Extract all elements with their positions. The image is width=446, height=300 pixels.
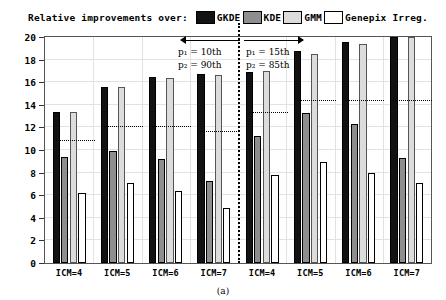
- reference-line-group-6: [297, 100, 336, 101]
- bar-kde-group-8: [399, 158, 406, 263]
- bar-kde-group-4: [206, 181, 213, 263]
- bar-kde-group-6: [302, 113, 309, 263]
- annotation-right-p1: p₁ = 15th: [246, 47, 290, 57]
- arrow-head-right-icon: [298, 36, 304, 44]
- x-axis-label-8: ICM=7: [394, 268, 421, 278]
- bar-gkde-group-7: [342, 42, 349, 263]
- legend-item-genepix: Genepix Irreg.: [324, 11, 428, 24]
- gridline-vertical: [142, 37, 143, 263]
- legend-swatch-gkde: [196, 11, 215, 24]
- bar-gkde-group-6: [294, 51, 301, 263]
- bar-gmm-group-1: [70, 112, 77, 263]
- y-axis-tick-4: 4: [30, 212, 36, 223]
- gridline-vertical: [286, 37, 287, 263]
- bar-genepix-group-1: [78, 193, 85, 263]
- bar-gmm-group-3: [166, 78, 173, 263]
- bar-gkde-group-4: [197, 74, 204, 263]
- bar-gkde-group-3: [149, 77, 156, 263]
- bar-kde-group-1: [61, 157, 68, 263]
- bar-genepix-group-7: [368, 173, 375, 263]
- panel-divider: [238, 23, 240, 263]
- y-axis-tick-12: 12: [25, 122, 36, 133]
- y-axis-tick-0: 0: [30, 258, 36, 269]
- x-axis-label-1: ICM=4: [56, 268, 83, 278]
- legend-item-gkde: GKDE: [196, 11, 241, 24]
- bar-gkde-group-8: [390, 37, 397, 263]
- x-axis-label-2: ICM=5: [104, 268, 131, 278]
- bar-genepix-group-8: [416, 183, 423, 263]
- reference-line-group-5: [249, 112, 288, 113]
- gridline-vertical: [335, 37, 336, 263]
- y-axis: 02468101214161820: [0, 36, 44, 264]
- annotation-left-p1: p₁ = 10th: [178, 47, 222, 57]
- gridline-vertical: [383, 37, 384, 263]
- bar-genepix-group-3: [175, 191, 182, 263]
- legend-label-genepix: Genepix Irreg.: [345, 12, 428, 23]
- legend-item-kde: KDE: [243, 11, 282, 24]
- reference-line-group-2: [104, 126, 143, 127]
- y-axis-tick-2: 2: [30, 235, 36, 246]
- bar-gkde-group-2: [101, 87, 108, 263]
- chart-legend: Relative improvements over: GKDE KDE GMM…: [28, 8, 442, 26]
- bar-genepix-group-5: [271, 175, 278, 263]
- plot-area: [44, 36, 432, 264]
- x-axis-label-4: ICM=7: [201, 268, 228, 278]
- bar-gmm-group-4: [215, 75, 222, 263]
- y-axis-tick-8: 8: [30, 167, 36, 178]
- annotation-right-p2: p₂ = 85th: [246, 60, 290, 70]
- legend-title: Relative improvements over:: [28, 12, 188, 23]
- gridline-vertical: [93, 37, 94, 263]
- x-axis-label-3: ICM=6: [152, 268, 179, 278]
- reference-line-group-7: [345, 100, 384, 101]
- legend-label-gmm: GMM: [304, 12, 322, 23]
- legend-swatch-gmm: [283, 11, 302, 24]
- bar-gmm-group-5: [263, 71, 270, 263]
- bar-gmm-group-8: [408, 37, 415, 263]
- bar-genepix-group-4: [223, 208, 230, 263]
- annotation-arrow-right: [244, 36, 303, 45]
- bar-genepix-group-2: [127, 183, 134, 263]
- bar-genepix-group-6: [320, 162, 327, 263]
- annotation-left-p2: p₂ = 90th: [178, 60, 222, 70]
- bar-gkde-group-5: [246, 72, 253, 263]
- legend-label-gkde: GKDE: [217, 12, 241, 23]
- figure-caption: (a): [0, 286, 446, 296]
- arrow-line: [244, 40, 303, 41]
- x-axis-label-5: ICM=4: [249, 268, 276, 278]
- bar-kde-group-3: [158, 159, 165, 263]
- bar-kde-group-5: [254, 136, 261, 263]
- y-axis-tick-16: 16: [25, 77, 36, 88]
- bar-gmm-group-7: [359, 44, 366, 263]
- gridline-vertical: [190, 37, 191, 263]
- y-axis-tick-20: 20: [25, 32, 36, 43]
- bar-gkde-group-1: [53, 112, 60, 263]
- y-axis-tick-10: 10: [25, 145, 36, 156]
- y-axis-tick-6: 6: [30, 190, 36, 201]
- bar-gmm-group-6: [311, 54, 318, 263]
- legend-item-gmm: GMM: [283, 11, 322, 24]
- chart-root: Relative improvements over: GKDE KDE GMM…: [0, 0, 446, 300]
- reference-line-group-8: [393, 100, 432, 101]
- bar-kde-group-7: [351, 124, 358, 263]
- legend-swatch-kde: [243, 11, 262, 24]
- bar-kde-group-2: [109, 151, 116, 263]
- y-axis-tick-18: 18: [25, 54, 36, 65]
- legend-label-kde: KDE: [264, 12, 282, 23]
- x-axis-label-6: ICM=5: [297, 268, 324, 278]
- reference-line-group-3: [152, 126, 191, 127]
- legend-swatch-genepix: [324, 11, 343, 24]
- reference-line-group-4: [200, 131, 239, 132]
- bar-gmm-group-2: [118, 87, 125, 263]
- y-axis-tick-14: 14: [25, 99, 36, 110]
- arrow-line: [181, 40, 240, 41]
- x-axis-label-7: ICM=6: [345, 268, 372, 278]
- annotation-arrow-left: [181, 36, 240, 45]
- reference-line-group-1: [56, 140, 95, 141]
